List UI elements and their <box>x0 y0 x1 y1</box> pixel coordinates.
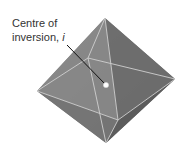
face-top-left <box>37 18 118 120</box>
centre-of-inversion-point <box>103 82 108 87</box>
octahedron-diagram <box>0 0 188 157</box>
